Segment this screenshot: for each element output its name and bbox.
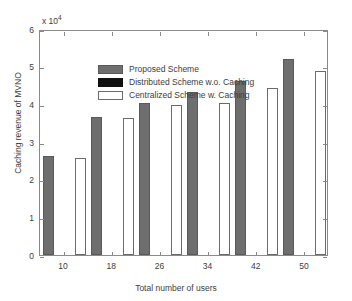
y-axis-tick-label: 2 — [18, 176, 34, 185]
legend-label-distributed-scheme: Distributed Scheme w.o. Caching — [129, 77, 254, 87]
legend-label-centralized-scheme: Centralized Scheme w. Caching — [129, 90, 249, 100]
y-axis-tick-mark — [40, 106, 44, 107]
legend-swatch-centralized-scheme — [98, 91, 123, 100]
y-axis-tick-label: 4 — [18, 101, 34, 110]
x-axis-tick-mark — [208, 32, 209, 36]
y-axis-tick-mark — [40, 68, 44, 69]
x-axis-tick-mark — [64, 32, 65, 36]
x-axis-tick-label: 42 — [241, 262, 271, 271]
y-axis-tick-mark — [40, 257, 44, 258]
x-axis-tick-mark — [160, 32, 161, 36]
x-axis-tick-mark — [304, 32, 305, 36]
y-axis-tick-mark — [323, 31, 327, 32]
y-axis-tick-mark — [323, 181, 327, 182]
bar-chart-figure: x 104 Caching revenue of MVNO Total numb… — [0, 0, 352, 301]
y-axis-tick-mark — [323, 68, 327, 69]
bar-proposed-scheme — [283, 59, 294, 255]
x-axis-tick-mark — [160, 252, 161, 256]
y-axis-exponent-base: x 10 — [42, 16, 58, 26]
x-axis-tick-label: 50 — [289, 262, 319, 271]
y-axis-tick-mark — [323, 144, 327, 145]
x-axis-tick-mark — [256, 252, 257, 256]
y-axis-tick-mark — [323, 106, 327, 107]
x-axis-tick-mark — [64, 252, 65, 256]
bar-centralized-scheme — [267, 88, 278, 255]
x-axis-tick-label: 34 — [193, 262, 223, 271]
bar-proposed-scheme — [235, 81, 246, 255]
plot-area: Proposed Scheme Distributed Scheme w.o. … — [39, 30, 328, 256]
y-axis-exponent-power: 4 — [58, 14, 62, 21]
legend-swatch-proposed-scheme — [98, 65, 123, 74]
y-axis-tick-mark — [40, 144, 44, 145]
bar-proposed-scheme — [43, 156, 54, 255]
bar-proposed-scheme — [91, 117, 102, 255]
x-axis-title: Total number of users — [0, 283, 352, 293]
y-axis-tick-label: 5 — [18, 63, 34, 72]
bar-centralized-scheme — [315, 71, 326, 255]
x-axis-tick-mark — [208, 252, 209, 256]
x-axis-tick-mark — [112, 32, 113, 36]
y-axis-tick-label: 0 — [18, 252, 34, 261]
bar-proposed-scheme — [187, 92, 198, 255]
y-axis-tick-mark — [40, 31, 44, 32]
legend-item: Centralized Scheme w. Caching — [98, 89, 282, 101]
x-axis-tick-label: 18 — [96, 262, 126, 271]
legend-item: Proposed Scheme — [98, 63, 282, 75]
bar-centralized-scheme — [75, 158, 86, 255]
bar-centralized-scheme — [123, 118, 134, 255]
y-axis-tick-mark — [40, 219, 44, 220]
y-axis-tick-mark — [323, 219, 327, 220]
x-axis-tick-mark — [112, 252, 113, 256]
legend-item: Distributed Scheme w.o. Caching — [98, 76, 282, 88]
bar-centralized-scheme — [171, 105, 182, 255]
y-axis-tick-mark — [40, 181, 44, 182]
bar-proposed-scheme — [139, 103, 150, 255]
x-axis-tick-label: 26 — [144, 262, 174, 271]
x-axis-tick-mark — [256, 32, 257, 36]
bar-centralized-scheme — [219, 103, 230, 255]
y-axis-exponent-label: x 104 — [42, 13, 62, 26]
x-axis-tick-mark — [304, 252, 305, 256]
legend-label-proposed-scheme: Proposed Scheme — [129, 64, 199, 74]
legend-swatch-distributed-scheme — [98, 78, 123, 87]
chart-legend: Proposed Scheme Distributed Scheme w.o. … — [98, 61, 282, 103]
y-axis-tick-mark — [323, 257, 327, 258]
y-axis-tick-label: 6 — [18, 26, 34, 35]
x-axis-tick-label: 10 — [48, 262, 78, 271]
y-axis-tick-label: 1 — [18, 214, 34, 223]
y-axis-tick-label: 3 — [18, 139, 34, 148]
